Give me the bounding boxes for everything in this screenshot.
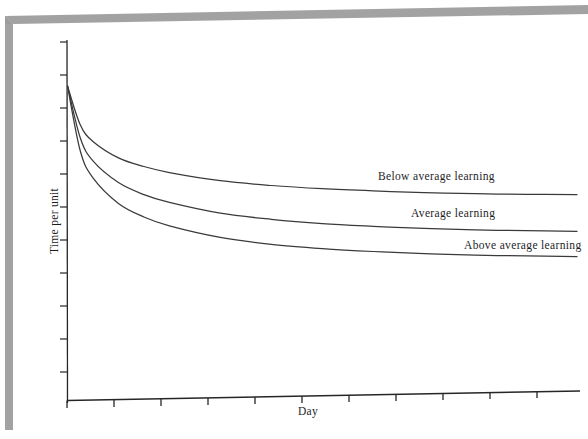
label-above-average-learning: Above average learning [464, 239, 582, 251]
curve-average-learning [68, 86, 578, 231]
curve-below-average-learning [68, 86, 578, 195]
learning-curve-chart [0, 0, 588, 439]
x-axis [67, 391, 580, 408]
label-below-average-learning: Below average learning [378, 170, 495, 182]
y-axis [60, 40, 68, 403]
y-axis-label: Time per unit [48, 161, 60, 281]
curve-above-average-learning [68, 86, 578, 257]
x-axis-label: Day [298, 405, 318, 417]
y-axis-ticks [60, 42, 67, 372]
figure-page: Below average learning Average learning … [0, 0, 588, 439]
label-average-learning: Average learning [411, 207, 495, 219]
